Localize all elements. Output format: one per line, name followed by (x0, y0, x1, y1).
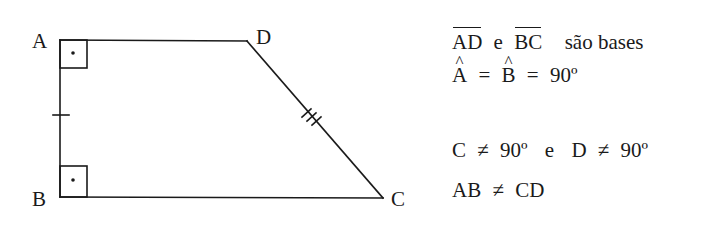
vertex-label-a: A (32, 29, 48, 53)
side-ab-label: AB (452, 178, 481, 202)
not-equal-1: ≠ (477, 138, 489, 162)
value-2: 90º (621, 138, 649, 162)
right-angle-dot-a (71, 51, 75, 55)
value-1: 90º (500, 138, 528, 162)
equals-2: = (527, 63, 539, 87)
not-equal-3: ≠ (492, 178, 504, 202)
side-dc (247, 41, 383, 198)
conjunction: e (494, 30, 503, 54)
equals-1: = (478, 63, 490, 87)
not-equal-2: ≠ (598, 138, 610, 162)
angle-value: 90º (550, 63, 578, 87)
side-bc (60, 197, 383, 198)
right-angle-dot-b (71, 178, 75, 182)
property-bases: AD e BC são bases (452, 30, 643, 54)
properties-list: AD e BC são bases A = B = 90º C ≠ 90º e … (452, 0, 720, 226)
conjunction-2: e (545, 138, 554, 162)
side-ad (60, 40, 247, 41)
angle-c: C (452, 138, 466, 162)
angle-a: A (452, 63, 467, 87)
vertex-label-c: C (391, 187, 405, 211)
vertex-label-d: D (256, 25, 271, 49)
property-non-right-angles: C ≠ 90º e D ≠ 90º (452, 138, 648, 162)
property-sides-unequal: AB ≠ CD (452, 178, 544, 202)
angle-b: B (502, 63, 516, 87)
segment-bc: BC (514, 30, 542, 54)
angle-d: D (571, 138, 586, 162)
vertex-label-b: B (32, 187, 46, 211)
property-right-angles: A = B = 90º (452, 63, 577, 87)
side-cd-label: CD (515, 178, 544, 202)
right-trapezoid-figure: A D B C (0, 0, 430, 226)
bases-text: são bases (565, 30, 644, 54)
